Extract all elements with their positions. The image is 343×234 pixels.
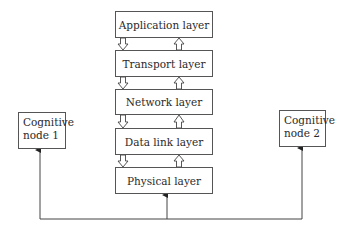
arrow-down-icon [118, 77, 128, 89]
arrow-down-icon [118, 38, 128, 50]
cognitive-node-2: Cognitive node 2 [279, 110, 326, 147]
arrow-down-icon [118, 115, 128, 128]
layer-data-link: Data link layer [115, 128, 213, 155]
node-label-line2: node 1 [23, 129, 61, 142]
layer-label: Physical layer [127, 175, 201, 187]
layer-network: Network layer [115, 89, 213, 115]
arrow-up-icon [174, 38, 184, 50]
node-label-line1: Cognitive [23, 116, 61, 129]
layer-label: Transport layer [123, 58, 206, 70]
layer-application: Application layer [115, 11, 213, 38]
arrow-up-icon [174, 115, 184, 128]
layer-label: Network layer [126, 96, 202, 108]
node-label-line2: node 2 [284, 127, 321, 140]
arrow-up-icon [174, 77, 184, 89]
layer-label: Data link layer [125, 136, 203, 148]
layer-transport: Transport layer [115, 50, 213, 77]
layer-physical: Physical layer [115, 167, 213, 194]
arrow-up-icon [174, 155, 184, 167]
layer-label: Application layer [119, 19, 210, 31]
arrow-down-icon [118, 155, 128, 167]
cognitive-node-1: Cognitive node 1 [18, 112, 66, 149]
node-label-line1: Cognitive [284, 114, 321, 127]
